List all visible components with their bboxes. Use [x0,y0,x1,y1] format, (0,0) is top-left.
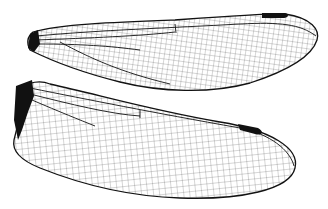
dragonfly-wings-illustration [0,0,328,209]
forewing [28,13,318,90]
wings-svg [0,0,328,209]
hindwing [14,80,296,198]
